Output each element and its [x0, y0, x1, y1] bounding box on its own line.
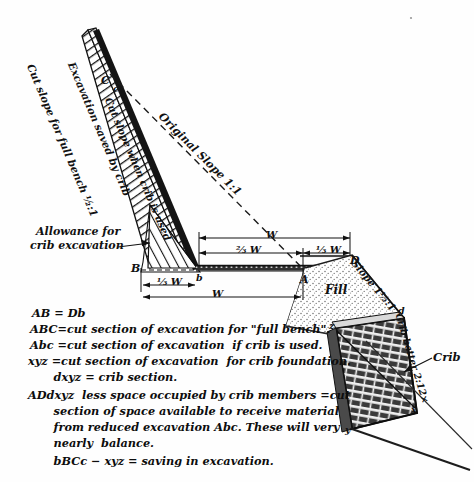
legend-item: bBCc − xyz = saving in excavation. [30, 454, 353, 468]
point-d: d [398, 305, 405, 316]
legend-item: AB = Db [32, 306, 355, 320]
ink-speck [410, 17, 412, 19]
legend-item: section of space available to receive ma… [30, 404, 353, 418]
legend-item: ABC=cut section of excavation for "full … [30, 322, 353, 336]
point-C: C [101, 74, 110, 87]
label-crib: Crib [433, 350, 461, 364]
dimension-top-w: W [266, 229, 277, 240]
label-allowance-line2: crib excavation [30, 239, 124, 252]
point-A: A [300, 273, 309, 286]
label-allowance-line1: Allowance for [36, 225, 120, 238]
legend-item: from reduced excavation Abc. These will … [30, 420, 353, 434]
dimension-bottom-w: W [212, 288, 223, 299]
point-c: c [113, 84, 118, 94]
legend-item: ADdxyz less space occupied by crib membe… [28, 388, 351, 402]
legend-item: Abc =cut section of excavation if crib i… [30, 338, 353, 352]
dimension-one-third-left: ⅓ W [157, 276, 182, 287]
point-b: b [196, 272, 203, 283]
point-x: x [411, 404, 417, 415]
legend-item: xyz =cut section of excavation for crib … [28, 354, 351, 368]
legend-block: AB = Db ABC=cut section of excavation fo… [18, 306, 341, 446]
figure-canvas: Cut slope for full bench ½:1 Excavation … [0, 0, 474, 482]
dimension-two-thirds-w: ⅔ W [236, 244, 261, 255]
point-B: B [131, 262, 140, 275]
label-fill: Fill [325, 283, 347, 297]
point-D: D [350, 254, 360, 267]
legend-item: nearly balance. [30, 436, 353, 450]
natural-ground-line-right [352, 429, 470, 470]
legend-item: dxyz = crib section. [30, 370, 353, 384]
dimension-one-third-right: ⅓ W [316, 244, 341, 255]
roadway-surface [196, 266, 316, 272]
